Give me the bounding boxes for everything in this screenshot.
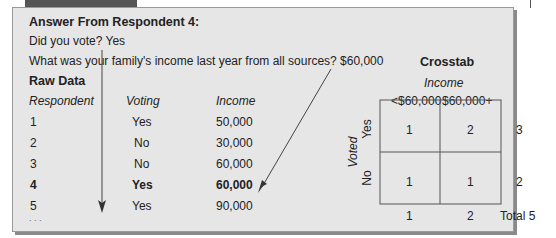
diagram-lines: [0, 0, 556, 238]
income-arrow-head: [258, 180, 267, 193]
income-arrow: [262, 69, 331, 187]
